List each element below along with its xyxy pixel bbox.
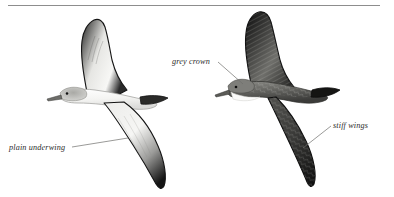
figure-right-bird-shearwater-upperside xyxy=(215,12,340,187)
annotation-grey-crown: grey crown xyxy=(172,58,210,66)
left-bird-far-wingtip xyxy=(140,96,168,105)
left-bird-head xyxy=(60,87,87,101)
annotation-stiff-wings: stiff wings xyxy=(333,122,368,130)
right-bird-lower-wing-stiff xyxy=(268,97,315,186)
leader-grey-crown xyxy=(218,62,243,84)
field-guide-plate: plain underwing grey crown stiff wings xyxy=(0,0,394,197)
plate-illustration xyxy=(0,0,394,197)
right-bird-grey-crown xyxy=(228,79,254,93)
leader-stiff-wings xyxy=(303,126,331,148)
leader-plain-underwing xyxy=(72,138,128,147)
left-bird-eye xyxy=(66,92,69,95)
left-bird-bill xyxy=(47,95,62,101)
right-bird-eye xyxy=(235,86,238,89)
annotation-plain-underwing: plain underwing xyxy=(9,144,65,152)
figure-left-bird-shearwater-underside xyxy=(47,19,168,188)
left-bird-lower-wing-underwing xyxy=(104,102,165,188)
left-bird-upper-wing xyxy=(81,19,127,98)
right-bird-bill xyxy=(215,90,230,97)
right-bird-far-wingtip xyxy=(311,88,340,97)
